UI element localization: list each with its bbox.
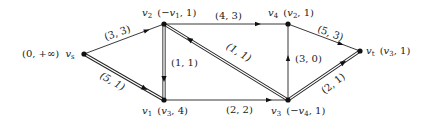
node-label-v2: v2 (−v1, 1) [142, 7, 196, 20]
edge-label-v3-v4: (3, 0) [295, 53, 322, 64]
node-label-vt: vt (v3, 1) [366, 45, 410, 58]
edge-v2-v4 [164, 22, 288, 26]
edge-label-vs-v1: (5, 1) [98, 70, 127, 93]
arrow-icon [161, 76, 166, 82]
node-vs [81, 51, 86, 56]
node-label-v1: v1 (v3, 4) [142, 105, 188, 118]
edge-label-v1-v3: (2, 2) [226, 104, 253, 115]
edge-v2-v1 [161, 24, 166, 100]
node-v1 [161, 97, 166, 102]
edge-label-v3-v2: (1, 1) [225, 41, 254, 64]
node-label-vs: (0, +∞) vs [22, 48, 75, 61]
node-v2 [161, 21, 166, 26]
node-vt [357, 48, 362, 53]
edge-label-v2-v1: (1, 1) [171, 57, 198, 68]
node-label-v4: v4 (v2, 1) [268, 7, 314, 20]
edge-v1-v3 [164, 98, 288, 102]
arrow-icon [255, 22, 261, 26]
edge-label-vs-v2: (3, 3) [103, 23, 132, 43]
arrow-icon [143, 27, 150, 33]
flow-network-diagram: (0, +∞) vs v2 (−v1, 1) v1 (v3, 4) v4 (v2… [0, 0, 431, 128]
edge-vs-v1 [84, 54, 164, 100]
node-v4 [285, 21, 290, 26]
node-v3 [285, 97, 290, 102]
edge-v3-v4 [286, 24, 290, 100]
node-label-v3: v3 (−v4, 1) [271, 105, 325, 118]
arrow-icon [286, 55, 290, 61]
arrow-icon [266, 98, 272, 102]
edge-label-v2-v4: (4, 3) [215, 10, 242, 21]
